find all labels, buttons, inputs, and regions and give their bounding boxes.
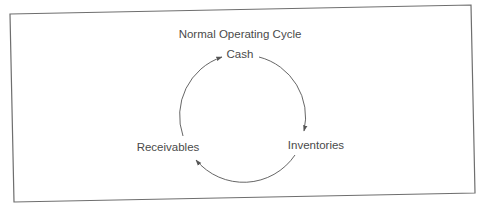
arrow-inventories-to-receivables (196, 155, 295, 182)
node-inventories: Inventories (288, 139, 345, 151)
diagram-title: Normal Operating Cycle (179, 28, 302, 40)
arrow-cash-to-inventories (259, 57, 306, 131)
arrow-receivables-to-cash (180, 57, 222, 136)
node-cash: Cash (227, 48, 254, 60)
node-receivables: Receivables (137, 141, 200, 153)
operating-cycle-diagram: Normal Operating Cycle Cash Inventories … (0, 0, 478, 205)
